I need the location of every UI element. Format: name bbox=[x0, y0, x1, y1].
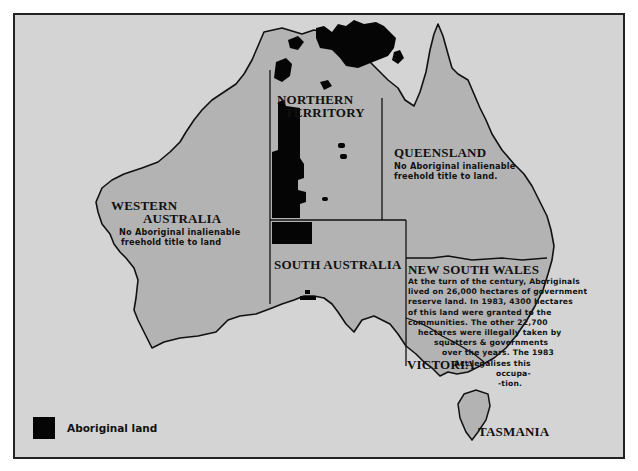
nsw-note-line: reserve land. In 1983, 4300 hectares bbox=[408, 297, 587, 307]
qld-note-line2: freehold title to land. bbox=[394, 171, 516, 181]
nt-name-line2: TERRITORY bbox=[277, 106, 365, 119]
label-tasmania: TASMANIA bbox=[478, 425, 549, 438]
nsw-note-line: hectares were illegally taken by bbox=[408, 328, 587, 338]
wa-note-line1: No Aboriginal inalienable bbox=[111, 227, 241, 237]
legend-swatch-aboriginal-land bbox=[33, 417, 55, 439]
nsw-name: NEW SOUTH WALES bbox=[408, 263, 587, 276]
label-queensland: QUEENSLAND No Aboriginal inalienable fre… bbox=[394, 146, 516, 181]
label-south-australia: SOUTH AUSTRALIA bbox=[274, 258, 402, 271]
qld-note-line1: No Aboriginal inalienable bbox=[394, 161, 516, 171]
qld-name: QUEENSLAND bbox=[394, 146, 516, 159]
wa-name-line2: AUSTRALIA bbox=[111, 212, 241, 225]
nsw-note-line: lived on 26,000 hectares of government bbox=[408, 287, 587, 297]
nsw-note-line: of this land were granted to the bbox=[408, 308, 587, 318]
nsw-note-line: squatters & governments bbox=[408, 338, 587, 348]
nsw-note-line: communities. The other 22,700 bbox=[408, 318, 587, 328]
nsw-note-line: -tion. bbox=[408, 379, 587, 389]
australia-map bbox=[15, 15, 625, 459]
label-northern-territory: NORTHERN TERRITORY bbox=[277, 93, 365, 119]
map-frame: NORTHERN TERRITORY QUEENSLAND No Aborigi… bbox=[13, 13, 625, 459]
label-western-australia: WESTERN AUSTRALIA No Aboriginal inaliena… bbox=[111, 199, 241, 247]
legend-label: Aboriginal land bbox=[67, 422, 157, 434]
wa-note-line2: freehold title to land bbox=[111, 237, 241, 247]
legend: Aboriginal land bbox=[33, 417, 157, 439]
nsw-note-line: At the turn of the century, Aboriginals bbox=[408, 277, 587, 287]
label-victoria: VICTORIA bbox=[407, 358, 475, 371]
